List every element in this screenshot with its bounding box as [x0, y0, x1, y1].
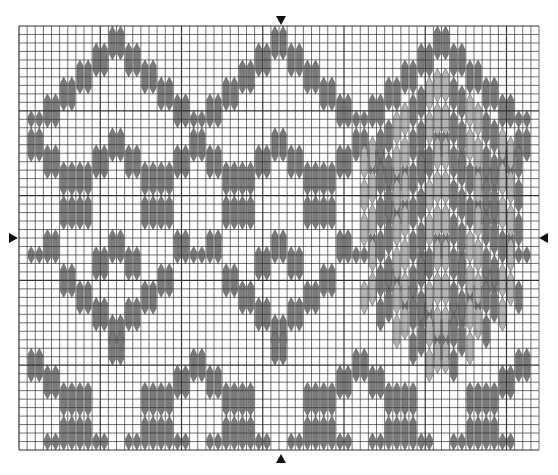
center-marker-right [539, 233, 548, 243]
center-marker-left [9, 233, 18, 243]
stitch-chart [0, 0, 558, 475]
center-marker-top [276, 16, 286, 25]
center-marker-bottom [276, 454, 286, 463]
